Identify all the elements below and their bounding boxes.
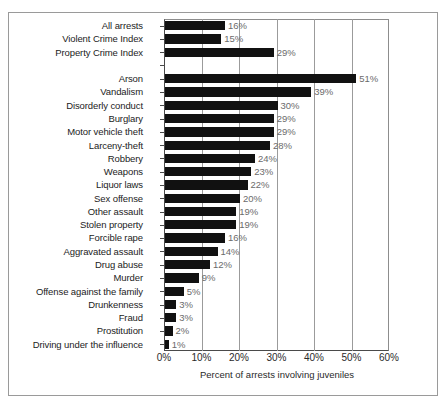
bar-value-label: 15% <box>224 32 243 45</box>
bar <box>165 141 270 150</box>
y-axis-tick <box>160 278 164 279</box>
bar <box>165 21 225 30</box>
bar <box>165 287 184 296</box>
bar-row: Offense against the family5% <box>9 285 437 298</box>
bar-value-label: 29% <box>277 46 296 59</box>
x-axis-tick-label: 50% <box>341 352 361 363</box>
x-axis-title: Percent of arrests involving juveniles <box>164 369 390 380</box>
bar-value-label: 1% <box>172 338 186 351</box>
bar <box>165 300 176 309</box>
bar-value-label: 22% <box>251 178 270 191</box>
bar-row: Liquor laws22% <box>9 178 437 191</box>
y-axis-tick <box>160 344 164 345</box>
bar <box>165 48 274 57</box>
bar <box>165 167 251 176</box>
bar-value-label: 23% <box>254 165 273 178</box>
bar-row: Disorderly conduct30% <box>9 99 437 112</box>
bar-value-label: 3% <box>179 298 193 311</box>
x-axis-tick-label: 40% <box>304 352 324 363</box>
y-axis-tick <box>160 158 164 159</box>
bar <box>165 101 278 110</box>
category-label: Liquor laws <box>96 178 143 191</box>
figure-frame: All arrests16%Violent Crime Index15%Prop… <box>8 12 438 396</box>
bar-value-label: 29% <box>277 112 296 125</box>
bar-value-label: 30% <box>281 99 300 112</box>
category-label: Prostitution <box>97 324 143 337</box>
category-label: Driving under the influence <box>33 338 143 351</box>
bar <box>165 127 274 136</box>
y-axis-tick <box>160 212 164 213</box>
bar-row: Forcible rape16% <box>9 231 437 244</box>
y-axis-tick <box>160 92 164 93</box>
y-axis-tick <box>160 185 164 186</box>
category-label: Stolen property <box>80 218 143 231</box>
bar-row: Aggravated assault14% <box>9 245 437 258</box>
bar-row: Burglary29% <box>9 112 437 125</box>
bar-row-spacer <box>9 59 437 72</box>
bar-value-label: 16% <box>228 19 247 32</box>
bar-value-label: 12% <box>213 258 232 271</box>
bar-rows: All arrests16%Violent Crime Index15%Prop… <box>9 19 437 351</box>
category-label: Violent Crime Index <box>62 32 143 45</box>
y-axis-tick <box>160 79 164 80</box>
y-axis-tick <box>160 225 164 226</box>
y-axis-tick <box>160 318 164 319</box>
bar <box>165 273 199 282</box>
bar-value-label: 20% <box>243 192 262 205</box>
bar-value-label: 16% <box>228 231 247 244</box>
bar-row: Drunkenness3% <box>9 298 437 311</box>
y-axis-tick <box>160 145 164 146</box>
category-label: Vandalism <box>100 85 143 98</box>
category-label: Larceny-theft <box>89 139 143 152</box>
bar-value-label: 19% <box>239 218 258 231</box>
x-axis-tick-label: 60% <box>379 352 399 363</box>
category-label: Burglary <box>108 112 143 125</box>
bar-value-label: 9% <box>202 271 216 284</box>
x-axis-tick-label: 0% <box>157 352 171 363</box>
category-label: Fraud <box>119 311 143 324</box>
bar-row: Motor vehicle theft29% <box>9 125 437 138</box>
bar-row: Weapons23% <box>9 165 437 178</box>
bar-value-label: 39% <box>314 85 333 98</box>
bar-value-label: 19% <box>239 205 258 218</box>
bar-value-label: 5% <box>187 285 201 298</box>
y-axis-tick <box>160 132 164 133</box>
y-axis-tick <box>160 291 164 292</box>
category-label: Other assault <box>88 205 143 218</box>
bar <box>165 233 225 242</box>
bar <box>165 326 173 335</box>
y-axis-tick <box>160 331 164 332</box>
y-axis-tick <box>160 238 164 239</box>
bar-value-label: 3% <box>179 311 193 324</box>
bar-row: Sex offense20% <box>9 192 437 205</box>
category-label: Murder <box>114 271 144 284</box>
x-axis-tick-label: 30% <box>266 352 286 363</box>
bar-value-label: 51% <box>359 72 378 85</box>
y-axis-tick <box>160 26 164 27</box>
category-label: Drunkenness <box>88 298 143 311</box>
category-label: Forcible rape <box>89 231 143 244</box>
y-axis-tick <box>160 119 164 120</box>
category-label: Sex offense <box>94 192 143 205</box>
bar-row: Arson51% <box>9 72 437 85</box>
bar <box>165 247 218 256</box>
category-label: Aggravated assault <box>63 245 143 258</box>
bar-value-label: 2% <box>176 324 190 337</box>
y-axis-tick <box>160 172 164 173</box>
bar-value-label: 24% <box>258 152 277 165</box>
bar-row: Prostitution2% <box>9 324 437 337</box>
bar-row: Larceny-theft28% <box>9 139 437 152</box>
bar <box>165 87 311 96</box>
bar <box>165 313 176 322</box>
category-label: Property Crime Index <box>55 46 143 59</box>
bar <box>165 220 236 229</box>
bar-row: Driving under the influence1% <box>9 338 437 351</box>
category-label: Drug abuse <box>95 258 143 271</box>
y-axis-tick <box>160 105 164 106</box>
category-label: Motor vehicle theft <box>67 125 143 138</box>
x-axis: 0%10%20%30%40%50%60% <box>164 352 390 368</box>
bar <box>165 340 169 349</box>
bar-row: Robbery24% <box>9 152 437 165</box>
bar-value-label: 28% <box>273 139 292 152</box>
category-label: Robbery <box>108 152 143 165</box>
